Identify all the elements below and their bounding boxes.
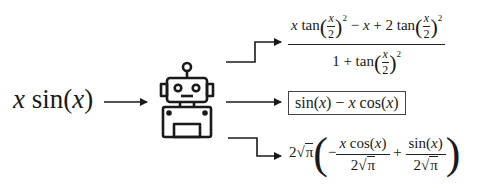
top-fraction: x tan(x2)2 − x + 2 tan(x2)2 1 + tan(x2)2 — [288, 11, 445, 78]
mid-close: ) — [393, 94, 398, 111]
f1-den-coef: 2 — [351, 157, 359, 173]
paren-open: ( — [374, 50, 381, 75]
bot-minus: − — [328, 144, 336, 160]
bot-plus: + — [393, 144, 401, 160]
mid-cos: cos( — [356, 94, 387, 111]
paren-open: ( — [415, 14, 422, 39]
paren-close: ) — [389, 50, 396, 75]
f2-den-pi: π — [429, 156, 438, 173]
f1-cos: cos( — [346, 135, 375, 151]
output-middle-boxed: sin(x) − x cos(x) — [288, 91, 406, 115]
paren-open: ( — [320, 14, 327, 39]
f2-close: ) — [438, 135, 443, 151]
f1-den-pi: π — [367, 156, 376, 173]
half-den: 2 — [327, 27, 335, 42]
arrow-bottom — [228, 138, 281, 156]
robot-icon — [161, 63, 213, 137]
num-plus-tan: + 2 tan — [370, 17, 416, 33]
mid-sin: sin( — [295, 94, 319, 111]
big-paren-open: ( — [313, 129, 328, 178]
sqrt-sign: √ — [297, 144, 305, 160]
num-tan1: tan — [298, 17, 320, 33]
half-num: x — [328, 11, 333, 25]
output-top: x tan(x2)2 − x + 2 tan(x2)2 1 + tan(x2)2 — [288, 11, 445, 78]
num-minus: − — [347, 17, 363, 33]
f2-den-coef: 2 — [413, 157, 421, 173]
bot-fraction-2: sin(x)2√π — [406, 135, 446, 174]
paren-close: ) — [430, 14, 437, 39]
mid-var2: x — [348, 94, 355, 111]
bot-coef: 2 — [289, 144, 297, 160]
exponent: 2 — [397, 49, 402, 59]
f2-var: x — [431, 135, 438, 151]
f1-var2: x — [375, 135, 382, 151]
f1-close: ) — [382, 135, 387, 151]
top-denominator: 1 + tan(x2)2 — [329, 45, 404, 78]
arrow-top — [226, 42, 281, 62]
num-var: x — [291, 17, 298, 33]
f2-sin: sin( — [409, 135, 432, 151]
half-num: x — [383, 47, 388, 61]
mid-minus: ) − — [326, 94, 348, 111]
half-fraction-1: x2 — [327, 11, 335, 42]
den-lead: 1 + tan — [332, 53, 374, 69]
top-numerator: x tan(x2)2 − x + 2 tan(x2)2 — [288, 11, 445, 45]
exponent: 2 — [438, 13, 443, 23]
half-num: x — [424, 11, 429, 25]
bot-fraction-1: x cos(x)2√π — [336, 135, 389, 174]
big-paren-close: ) — [446, 129, 461, 178]
output-bottom: 2√π(−x cos(x)2√π + sin(x)2√π) — [289, 132, 460, 176]
num-var2: x — [363, 17, 370, 33]
